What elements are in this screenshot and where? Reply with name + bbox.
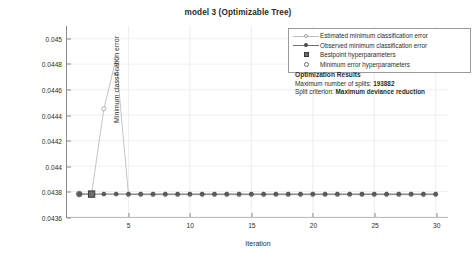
y-tick-label: 0.0438 — [42, 189, 62, 196]
figure-canvas: model 3 (Optimizable Tree) 0.04360.04380… — [0, 0, 476, 270]
result-max-splits: Maximum number of splits: 193882 — [295, 80, 471, 89]
x-tick-label: 30 — [433, 222, 440, 229]
legend-item-bestpoint: Bestpoint hyperparameters — [292, 50, 467, 60]
x-tick-mark — [375, 213, 376, 217]
x-tick-mark — [128, 213, 129, 217]
optimization-results-title: Optimization Results — [295, 71, 471, 78]
line-open-circle-icon — [292, 31, 320, 41]
legend: Estimated minimum classification error O… — [288, 28, 471, 73]
legend-label: Minimum error hyperparameters — [320, 60, 410, 70]
y-tick-mark — [67, 218, 71, 219]
open-circle-icon — [292, 60, 320, 70]
legend-label: Bestpoint hyperparameters — [320, 50, 396, 60]
y-tick-label: 0.0436 — [42, 215, 62, 222]
chart-title: model 3 (Optimizable Tree) — [0, 8, 476, 17]
y-tick-mark — [67, 192, 71, 193]
result-split-criterion: Split criterion: Maximum deviance reduct… — [295, 88, 471, 97]
y-tick-label: 0.0446 — [42, 87, 62, 94]
legend-label: Observed minimum classification error — [320, 41, 427, 51]
x-tick-mark — [436, 213, 437, 217]
line-filled-circle-icon — [292, 41, 320, 51]
x-tick-mark — [251, 213, 252, 217]
y-axis-label: Minimum classification error — [113, 10, 120, 150]
x-tick-mark — [190, 213, 191, 217]
legend-label: Estimated minimum classification error — [320, 31, 428, 41]
legend-item-estimated-min-error: Estimated minimum classification error — [292, 31, 467, 41]
y-tick-mark — [67, 90, 71, 91]
optimization-results-panel: Optimization Results Maximum number of s… — [295, 71, 471, 97]
x-tick-label: 10 — [187, 222, 194, 229]
filled-square-icon — [292, 50, 320, 60]
x-tick-label: 15 — [248, 222, 255, 229]
y-tick-mark — [67, 115, 71, 116]
y-tick-mark — [67, 64, 71, 65]
result-value: Maximum deviance reduction — [336, 88, 426, 95]
y-tick-mark — [67, 141, 71, 142]
y-tick-mark — [67, 166, 71, 167]
y-tick-label: 0.0448 — [42, 61, 62, 68]
x-tick-label: 25 — [371, 222, 378, 229]
result-label: Split criterion: — [295, 88, 336, 95]
y-tick-mark — [67, 38, 71, 39]
x-tick-label: 20 — [310, 222, 317, 229]
legend-item-observed-min-error: Observed minimum classification error — [292, 41, 467, 51]
y-tick-label: 0.0444 — [42, 112, 62, 119]
legend-item-min-error-hyperparams: Minimum error hyperparameters — [292, 60, 467, 70]
result-value: 193882 — [373, 80, 394, 87]
x-tick-mark — [313, 213, 314, 217]
x-axis-label: Iteration — [67, 240, 449, 247]
result-label: Maximum number of splits: — [295, 80, 373, 87]
y-tick-label: 0.045 — [45, 35, 62, 42]
y-tick-label: 0.0442 — [42, 138, 62, 145]
x-tick-label: 5 — [127, 222, 131, 229]
y-tick-label: 0.044 — [45, 163, 62, 170]
